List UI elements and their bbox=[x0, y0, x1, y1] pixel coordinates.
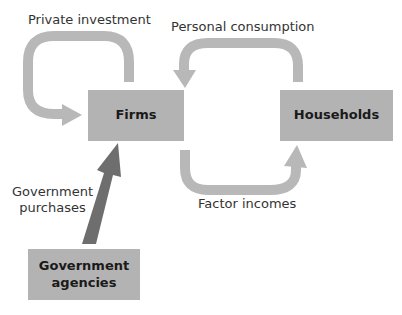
government-agencies-line2: agencies bbox=[52, 275, 117, 291]
factor-incomes-label: Factor incomes bbox=[198, 196, 296, 211]
government-agencies-node: Government agencies bbox=[28, 249, 140, 300]
personal-consumption-label: Personal consumption bbox=[171, 19, 315, 34]
government-purchases-line1: Government bbox=[12, 184, 93, 200]
factor-incomes-arrow bbox=[185, 150, 296, 190]
government-agencies-line1: Government bbox=[39, 258, 129, 274]
firms-node: Firms bbox=[88, 90, 184, 141]
personal-consumption-arrow bbox=[184, 43, 298, 82]
personal-consumption-arrowhead bbox=[173, 70, 196, 88]
households-node: Households bbox=[280, 90, 393, 141]
private-investment-label: Private investment bbox=[28, 12, 151, 27]
government-purchases-line2: purchases bbox=[12, 200, 93, 216]
factor-incomes-arrowhead bbox=[284, 145, 307, 168]
firms-label: Firms bbox=[115, 107, 156, 123]
government-purchases-label: Government purchases bbox=[12, 184, 93, 216]
households-label: Households bbox=[294, 107, 379, 123]
private-investment-arrowhead bbox=[62, 104, 82, 126]
